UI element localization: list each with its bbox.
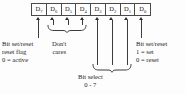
bit-cell-d0: D0: [135, 4, 150, 15]
annotation-dont-cares-line1: Don't: [52, 40, 66, 48]
bit-label-d5: D5: [65, 6, 72, 13]
bit-label-d6: D6: [50, 6, 57, 13]
leader-line-d0: [141, 20, 142, 38]
annotation-set-reset-flag-line3: 0 = active: [2, 56, 33, 64]
bit-cell-d7: D7: [32, 4, 47, 15]
annotation-set-reset-value-line1: Bit set/reset: [136, 40, 167, 48]
bit-cell-d2: D2: [106, 4, 121, 15]
bit-set-reset-register-diagram: D7 D6 D5 D4 D3 D2 D1 D0: [0, 0, 185, 94]
bit-label-d2: D2: [109, 6, 116, 13]
annotation-set-reset-flag-line1: Bit set/reset: [2, 40, 33, 48]
bit-label-d7: D7: [35, 6, 42, 13]
brace-bit-select: [92, 64, 132, 73]
bit-cell-d6: D6: [47, 4, 62, 15]
annotation-set-reset-value-line3: 0 = reset: [136, 56, 167, 64]
leader-line-d1: [127, 20, 128, 65]
bit-label-d3: D3: [94, 6, 101, 13]
annotation-bit-select-line2: 0 - 7: [78, 81, 103, 89]
bit-cell-d3: D3: [91, 4, 106, 15]
annotation-set-reset-value: Bit set/reset 1 = set 0 = reset: [136, 40, 167, 65]
bit-cell-d4: D4: [76, 4, 91, 15]
brace-dont-cares: [47, 25, 87, 33]
annotation-set-reset-value-line2: 1 = set: [136, 48, 167, 56]
leader-line-d3: [97, 20, 98, 65]
bit-label-d0: D0: [139, 6, 146, 13]
annotation-set-reset-flag: Bit set/reset reset flag 0 = active: [2, 40, 33, 65]
annotation-dont-cares-line2: cares: [52, 48, 66, 56]
annotation-dont-cares: Don't cares: [52, 40, 66, 56]
bit-cell-d1: D1: [121, 4, 136, 15]
bit-cell-d5: D5: [62, 4, 77, 15]
register-bit-row: D7 D6 D5 D4 D3 D2 D1 D0: [31, 3, 151, 16]
bit-label-d4: D4: [80, 6, 87, 13]
leader-line-d7: [38, 20, 39, 38]
annotation-bit-select: Bit select 0 - 7: [78, 73, 103, 89]
bit-label-d1: D1: [124, 6, 131, 13]
leader-line-d2: [112, 20, 113, 65]
annotation-set-reset-flag-line2: reset flag: [2, 48, 33, 56]
annotation-bit-select-line1: Bit select: [78, 73, 103, 81]
